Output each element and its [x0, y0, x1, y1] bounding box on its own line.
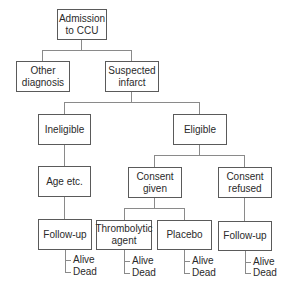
node-label: Follow-up: [223, 230, 266, 242]
connector: [64, 102, 200, 103]
node-label: infarct: [118, 77, 145, 89]
outcome-connector: [184, 261, 190, 262]
node-eligible: Eligible: [173, 114, 227, 145]
outcome-dead: Dead: [253, 267, 277, 278]
node-label: Ineligible: [45, 124, 84, 136]
connector: [244, 155, 245, 167]
node-admission-to-ccu: Admission to CCU: [57, 9, 107, 40]
node-other-diagnosis: Other diagnosis: [16, 61, 70, 92]
node-follow-up-left: Follow-up: [38, 219, 92, 250]
outcome-alive: Alive: [132, 255, 154, 266]
outcome-connector: [184, 273, 190, 274]
connector: [244, 197, 245, 221]
outcome-dead: Dead: [132, 267, 156, 278]
connector: [42, 50, 43, 61]
node-label: to CCU: [66, 25, 99, 37]
connector: [199, 144, 200, 155]
outcome-alive: Alive: [73, 254, 95, 265]
node-label: refused: [228, 183, 261, 195]
outcome-connector: [245, 262, 251, 263]
connector: [199, 102, 200, 114]
node-label: Consent: [136, 171, 173, 183]
node-follow-up-right: Follow-up: [218, 221, 272, 251]
node-label: Other: [30, 65, 55, 77]
node-label: Suspected: [108, 65, 155, 77]
connector: [131, 50, 132, 61]
node-label: Eligible: [184, 124, 216, 136]
connector: [64, 144, 65, 166]
outcome-connector: [65, 272, 71, 273]
outcome-alive: Alive: [253, 256, 275, 267]
node-ineligible: Ineligible: [38, 114, 91, 145]
outcome-dead: Dead: [73, 266, 97, 277]
node-placebo: Placebo: [157, 220, 212, 250]
node-thrombolytic-agent: Thrombolytic agent: [96, 220, 152, 250]
outcome-connector: [124, 261, 130, 262]
node-consent-given: Consent given: [128, 167, 182, 198]
node-label: Thrombolytic: [95, 223, 152, 235]
outcome-alive: Alive: [192, 255, 214, 266]
connector: [64, 196, 65, 219]
connector: [42, 50, 132, 51]
node-label: agent: [111, 235, 136, 247]
outcome-connector: [124, 273, 130, 274]
connector: [184, 208, 185, 220]
connector: [154, 197, 155, 208]
flowchart: Admission to CCU Other diagnosis Suspect…: [0, 0, 282, 284]
node-label: Age etc.: [46, 176, 83, 188]
node-consent-refused: Consent refused: [218, 167, 272, 198]
node-label: given: [143, 183, 167, 195]
connector: [124, 208, 185, 209]
connector: [154, 155, 245, 156]
node-label: Placebo: [166, 229, 202, 241]
node-label: diagnosis: [22, 77, 64, 89]
node-suspected-infarct: Suspected infarct: [105, 61, 159, 92]
connector: [124, 208, 125, 220]
node-age-etc: Age etc.: [38, 166, 91, 197]
outcome-connector: [65, 260, 71, 261]
connector: [64, 102, 65, 114]
outcome-connector: [65, 249, 66, 273]
connector: [81, 39, 82, 50]
node-label: Follow-up: [43, 229, 86, 241]
node-label: Consent: [226, 171, 263, 183]
connector: [154, 155, 155, 167]
outcome-connector: [245, 273, 251, 274]
node-label: Admission: [59, 13, 105, 25]
outcome-dead: Dead: [192, 267, 216, 278]
